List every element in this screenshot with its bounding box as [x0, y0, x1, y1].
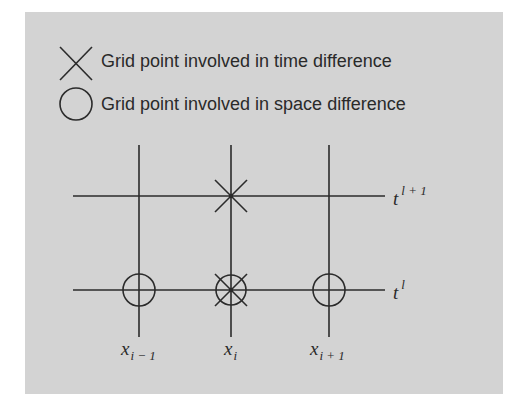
time-label-t-l: tl: [393, 277, 405, 303]
space-label-x-i-minus-1: xi − 1: [120, 338, 156, 363]
cross-marker-icon: [60, 47, 92, 80]
legend-label-time: Grid point involved in time difference: [101, 51, 392, 71]
space-label-x-i: xi: [223, 338, 237, 363]
legend: Grid point involved in time difference G…: [60, 47, 406, 120]
finite-difference-stencil-diagram: Grid point involved in time difference G…: [0, 0, 525, 405]
space-label-x-i-plus-1: xi + 1: [309, 338, 345, 363]
figure-canvas: Grid point involved in time difference G…: [0, 0, 525, 405]
space-labels: xi − 1 xi xi + 1: [120, 338, 345, 363]
circle-marker-icon: [60, 88, 92, 120]
legend-label-space: Grid point involved in space difference: [101, 94, 406, 114]
time-labels: tl + 1 tl: [393, 183, 427, 303]
legend-item-space: Grid point involved in space difference: [60, 88, 406, 120]
time-label-t-l-plus-1: tl + 1: [393, 183, 427, 209]
grid-lines: [73, 145, 385, 337]
markers: [123, 180, 345, 306]
legend-item-time: Grid point involved in time difference: [60, 47, 392, 80]
